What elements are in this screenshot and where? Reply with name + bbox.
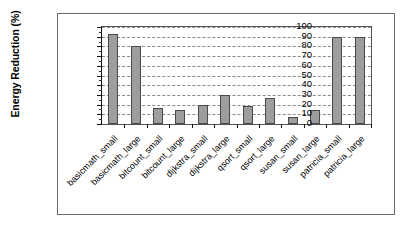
x-tick — [371, 124, 372, 128]
x-tick — [169, 124, 170, 128]
x-tick — [214, 124, 215, 128]
x-tick — [237, 124, 238, 128]
x-tick — [349, 124, 350, 128]
figure: Energy Reduction (%) 0102030405060708090… — [0, 0, 415, 233]
bar — [355, 37, 365, 124]
bar — [131, 46, 141, 124]
bar — [153, 108, 163, 124]
x-tick — [259, 124, 260, 128]
y-axis-title: Energy Reduction (%) — [9, 4, 23, 124]
y-tick-label: 0 — [272, 118, 312, 127]
bar-series — [102, 27, 371, 124]
y-tick-label: 10 — [272, 108, 312, 117]
x-tick — [147, 124, 148, 128]
y-tick-label: 100 — [272, 21, 312, 30]
y-tick — [97, 124, 102, 125]
y-tick-label: 40 — [272, 79, 312, 88]
y-tick-label: 20 — [272, 99, 312, 108]
bar — [220, 95, 230, 124]
x-tick — [192, 124, 193, 128]
y-tick-label: 60 — [272, 60, 312, 69]
y-tick-label: 80 — [272, 40, 312, 49]
bar — [198, 105, 208, 124]
y-tick-label: 30 — [272, 89, 312, 98]
bar — [175, 110, 185, 124]
y-tick-label: 70 — [272, 50, 312, 59]
y-tick-label: 90 — [272, 31, 312, 40]
x-tick — [124, 124, 125, 128]
plot-area — [101, 26, 372, 125]
bar — [332, 37, 342, 124]
bar — [108, 34, 118, 124]
x-tick — [326, 124, 327, 128]
y-tick-label: 50 — [272, 70, 312, 79]
bar — [243, 106, 253, 124]
